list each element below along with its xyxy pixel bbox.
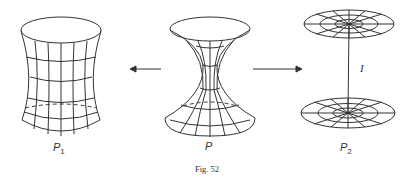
bottom-disc — [301, 98, 395, 128]
label-p1: P1 — [53, 141, 65, 156]
surface-p — [165, 17, 255, 137]
figure-caption: Fig. 52 — [195, 164, 219, 174]
label-segment-i: I — [360, 62, 364, 74]
label-p: P — [205, 140, 212, 152]
arrow-to-p1 — [130, 66, 161, 72]
surface-p2 — [301, 10, 395, 128]
label-p2: P2 — [340, 141, 352, 156]
surface-p1 — [21, 17, 101, 136]
arrow-to-p2 — [253, 66, 302, 72]
